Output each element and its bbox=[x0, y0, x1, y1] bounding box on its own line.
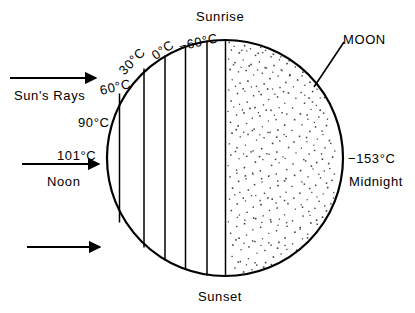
isotherm-label-90: 90°C bbox=[78, 116, 109, 129]
midnight-label: Midnight bbox=[349, 175, 403, 188]
noon-temperature-label: 101°C bbox=[57, 149, 96, 162]
sunset-label: Sunset bbox=[198, 290, 242, 303]
night-side-stipple bbox=[226, 38, 346, 278]
sunrise-label: Sunrise bbox=[196, 10, 244, 23]
isotherm-chords bbox=[120, 40, 226, 276]
noon-label: Noon bbox=[47, 175, 80, 188]
moon-temperature-diagram: Sunrise Sunset MOON Sun's Rays Noon Midn… bbox=[0, 0, 415, 313]
moon-label: MOON bbox=[343, 33, 386, 46]
moon-leader-line bbox=[314, 42, 344, 87]
suns-rays-label: Sun's Rays bbox=[14, 89, 85, 102]
midnight-temperature-label: −153°C bbox=[348, 152, 395, 165]
